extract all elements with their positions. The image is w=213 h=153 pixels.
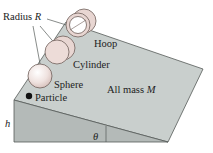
sphere-icon <box>28 64 52 88</box>
hoop-label: Hoop <box>94 38 117 49</box>
mass-label: All mass M <box>107 84 157 95</box>
radius-label: Radius R <box>3 11 42 22</box>
cylinder-label: Cylinder <box>73 59 110 70</box>
particle-label: Particle <box>35 92 67 103</box>
sphere-label: Sphere <box>54 79 83 90</box>
angle-label: θ <box>93 131 98 142</box>
incline-diagram: Radius R Hoop Cylinder Sphere Particle A… <box>0 0 213 153</box>
height-label: h <box>5 118 10 129</box>
particle-icon <box>26 93 32 99</box>
